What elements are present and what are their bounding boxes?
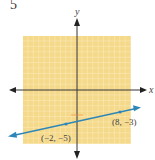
point-8-neg3 [118,110,121,113]
point-label-neg2-neg5: (−2, −5) [41,133,71,143]
x-axis-label: x [148,84,154,95]
line-arrow-right-icon [133,105,141,111]
arrow-left-icon [9,87,16,93]
point-neg2-neg5 [64,122,67,125]
coordinate-graph: x y (−2, −5) (8, −3) [0,0,155,160]
arrow-up-icon [74,18,80,26]
y-axis-label: y [74,6,80,17]
line-arrow-left-icon [8,132,17,138]
arrow-right-icon [140,87,147,93]
point-label-8-neg3: (8, −3) [112,117,137,127]
arrow-down-icon [74,151,80,159]
